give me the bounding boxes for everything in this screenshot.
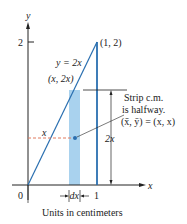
dx-label: dx [70, 190, 80, 201]
arrow-left-icon [80, 195, 84, 198]
arrow-up-icon [110, 90, 113, 95]
y-axis-label: y [25, 10, 31, 21]
annotation-line3: (x̄, ȳ) = (x, x) [121, 116, 175, 128]
strip-top-label: (x, 2x) [48, 73, 74, 85]
annotation-line1: Strip c.m. [124, 92, 163, 103]
annotation-leader [77, 115, 124, 137]
x-tick-label: 1 [94, 190, 99, 201]
height-label: 2x [105, 133, 115, 144]
centroid-dot [73, 136, 77, 140]
y-tick-label: 2 [18, 37, 23, 48]
x-axis-label: x [147, 180, 153, 191]
dashed-x-label: x [41, 127, 47, 138]
caption: Units in centimeters [42, 207, 123, 218]
origin-label: 0 [18, 190, 23, 201]
annotation-line2: is halfway. [122, 104, 165, 115]
endpoint-label: (1, 2) [100, 37, 122, 49]
x-axis-arrow-icon [139, 183, 146, 187]
arrow-down-icon [110, 180, 113, 185]
curve-label: y = 2x [55, 57, 82, 68]
y-axis-arrow-icon [26, 22, 30, 29]
centroid-diagram: y 2 (1, 2) y = 2x (x, 2x) x 2x Strip c.m… [0, 0, 187, 224]
arrow-right-icon [65, 195, 69, 198]
